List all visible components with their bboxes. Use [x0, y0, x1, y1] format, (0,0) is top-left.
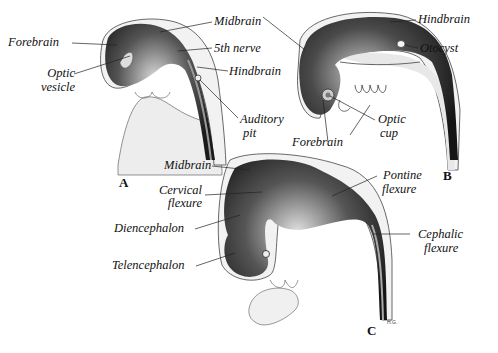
label-c-diencephalon: Diencephalon [114, 222, 184, 235]
label-c-cephalic-flexure-line1: Cephalic [418, 228, 463, 241]
label-b-otocyst: Otocyst [420, 42, 458, 55]
panel-c-embryo [218, 154, 392, 325]
artist-signature: H.G. [387, 319, 397, 325]
panel-label-c: C [367, 323, 376, 339]
label-a-optic-vesicle-line2: vesicle [30, 81, 75, 94]
label-c-pontine-flexure-line2: flexure [382, 183, 416, 196]
label-c-cervical-flexure-line2: flexure [150, 197, 202, 210]
label-c-telencephalon: Telencephalon [112, 259, 184, 272]
panel-a-embryo [101, 19, 226, 175]
label-c-midbrain: Midbrain [164, 159, 211, 172]
label-a-auditory-pit-line1: Auditory [240, 113, 284, 126]
label-a-5th-nerve: 5th nerve [214, 42, 261, 55]
panel-label-a: A [119, 175, 128, 191]
label-b-hindbrain: Hindbrain [418, 13, 470, 26]
panel-label-b: B [443, 168, 452, 184]
label-a-midbrain: Midbrain [214, 15, 261, 28]
label-b-optic-cup-line2: cup [380, 127, 398, 140]
label-a-optic-vesicle-line1: Optic [35, 67, 75, 80]
label-b-optic-cup-line1: Optic [378, 113, 406, 126]
label-a-auditory-pit-line2: pit [243, 127, 256, 140]
label-a-hindbrain: Hindbrain [229, 65, 281, 78]
label-a-forebrain: Forebrain [8, 36, 59, 49]
label-c-pontine-flexure-line1: Pontine [383, 169, 422, 182]
label-c-cephalic-flexure-line2: flexure [424, 242, 458, 255]
label-b-forebrain: Forebrain [292, 136, 343, 149]
embryo-brain-diagram: Forebrain Optic vesicle Midbrain 5th ner… [0, 0, 498, 353]
